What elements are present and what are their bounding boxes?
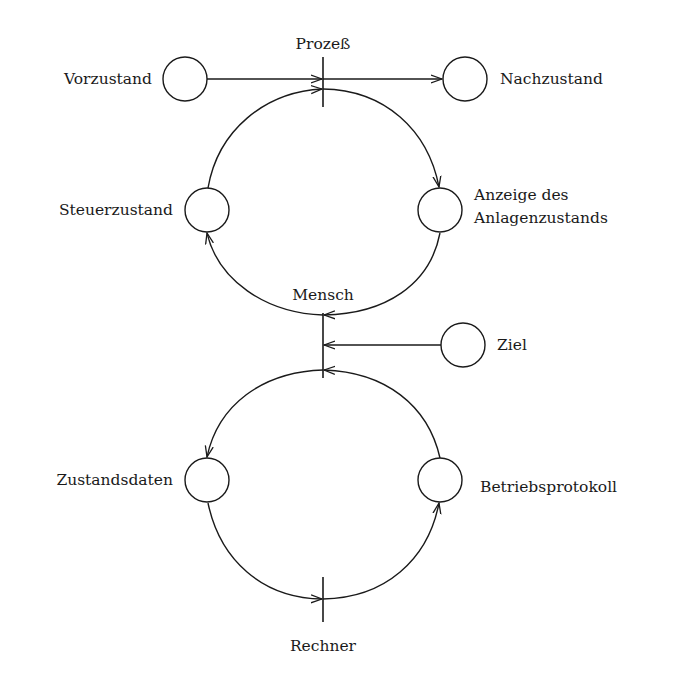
arc-betriebsprotokoll-mensch [324, 370, 440, 458]
place-zustandsdaten-label: Zustandsdaten [56, 471, 173, 489]
place-ziel-label: Ziel [497, 336, 527, 354]
arc-steuerzustand-prozess [208, 89, 322, 188]
transition-prozess-label: Prozeß [296, 35, 351, 53]
place-steuerzustand [185, 188, 229, 232]
transition-mensch-label: Mensch [292, 286, 354, 304]
place-ziel [441, 323, 485, 367]
place-betriebsprotokoll [418, 458, 462, 502]
place-vorzustand [163, 57, 207, 101]
transition-rechner-label: Rechner [290, 637, 357, 655]
place-zustandsdaten [185, 458, 229, 502]
place-nachzustand [443, 57, 487, 101]
place-anzeige-anlagenzustand [418, 188, 462, 232]
arc-zustandsdaten-rechner [208, 503, 322, 599]
place-nachzustand-label: Nachzustand [500, 70, 603, 88]
place-vorzustand-label: Vorzustand [63, 70, 152, 88]
arc-rechner-betriebsprotokoll [323, 503, 439, 599]
petri-net-diagram: Prozeß Vorzustand Nachzustand Steuerzust… [0, 0, 681, 676]
place-steuerzustand-label: Steuerzustand [59, 201, 173, 219]
place-anzeige-label-line2: Anlagenzustands [473, 209, 608, 227]
place-anzeige-label-line1: Anzeige des [473, 186, 569, 204]
arc-prozess-anzeige [323, 89, 439, 187]
place-betriebsprotokoll-label: Betriebsprotokoll [480, 478, 617, 496]
arc-mensch-zustandsdaten [207, 370, 323, 457]
